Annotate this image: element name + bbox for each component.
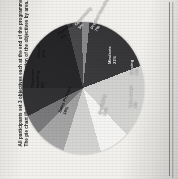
- scanned-page: All participants set 3 objectives each a…: [0, 0, 178, 179]
- page-edge-line: [169, 2, 170, 176]
- page-gutter-shadow: [172, 2, 174, 178]
- pie-slices: [22, 22, 143, 154]
- pie-chart: Mindsets 21% Product Knowledge 7% Opport…: [24, 12, 142, 164]
- pie-wrap: [22, 22, 143, 154]
